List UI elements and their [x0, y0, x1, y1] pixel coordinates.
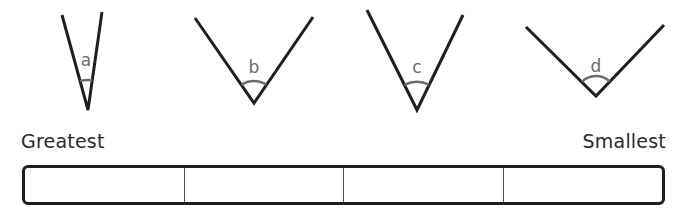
- answer-cell-1[interactable]: [25, 168, 185, 202]
- angle-c-label: c: [412, 57, 421, 77]
- angle-b-label: b: [249, 57, 260, 77]
- angle-a-label: a: [81, 50, 91, 70]
- angle-d-arc: [582, 76, 610, 82]
- smallest-label: Smallest: [583, 130, 666, 152]
- greatest-label: Greatest: [21, 130, 105, 152]
- angle-b: b: [195, 17, 313, 103]
- answer-cell-3[interactable]: [344, 168, 504, 202]
- angle-d: d: [526, 25, 664, 96]
- answer-cell-2[interactable]: [185, 168, 345, 202]
- ordering-box: [22, 165, 665, 205]
- angle-a-arc: [80, 80, 92, 81]
- answer-cell-4[interactable]: [504, 168, 663, 202]
- angle-c: c: [367, 10, 463, 110]
- angle-d-label: d: [591, 56, 602, 76]
- angle-c-arc: [404, 82, 429, 85]
- angle-b-arc: [241, 81, 266, 85]
- angle-a: a: [62, 12, 102, 110]
